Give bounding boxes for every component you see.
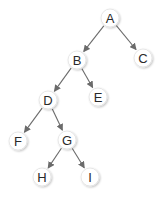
edge-g-i (72, 149, 84, 168)
edge-b-e (82, 69, 93, 88)
node-label: E (94, 90, 103, 105)
node-label: B (73, 53, 82, 68)
node-label: F (14, 134, 22, 149)
node-d: D (39, 91, 57, 109)
node-f: F (9, 132, 27, 150)
node-label: I (88, 170, 92, 185)
node-e: E (89, 88, 107, 106)
node-h: H (33, 168, 51, 186)
tree-diagram: ABCDEFGHI (0, 0, 156, 199)
node-label: H (37, 170, 46, 185)
edge-a-b (84, 26, 104, 52)
edge-a-c (116, 26, 136, 50)
node-c: C (134, 49, 152, 67)
edge-b-d (55, 68, 72, 91)
node-g: G (58, 131, 76, 149)
node-label: D (43, 93, 52, 108)
node-label: G (62, 133, 72, 148)
node-i: I (81, 168, 99, 186)
nodes-layer: ABCDEFGHI (9, 9, 152, 186)
node-label: A (106, 11, 115, 26)
edge-d-g (52, 109, 62, 130)
node-b: B (68, 51, 86, 69)
edge-g-h (48, 148, 61, 168)
node-label: C (138, 51, 147, 66)
edge-d-f (25, 108, 43, 132)
node-a: A (101, 9, 119, 27)
